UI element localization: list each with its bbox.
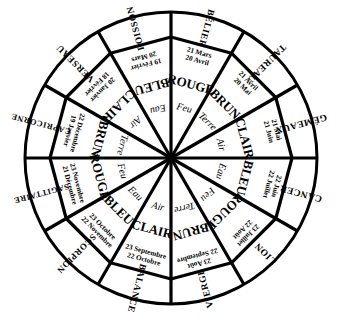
zodiac-wheel-svg: BÉLIER21 Mars20 AvrilROUGEFeuTAUREAU21 A…: [0, 0, 339, 323]
zodiac-wheel-diagram: BÉLIER21 Mars20 AvrilROUGEFeuTAUREAU21 A…: [0, 0, 339, 323]
wheel-hub: [166, 153, 176, 163]
